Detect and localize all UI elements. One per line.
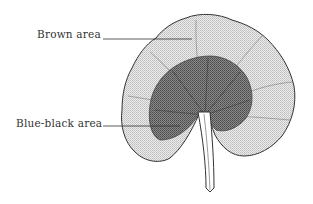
leaf-illustration [0,0,313,204]
